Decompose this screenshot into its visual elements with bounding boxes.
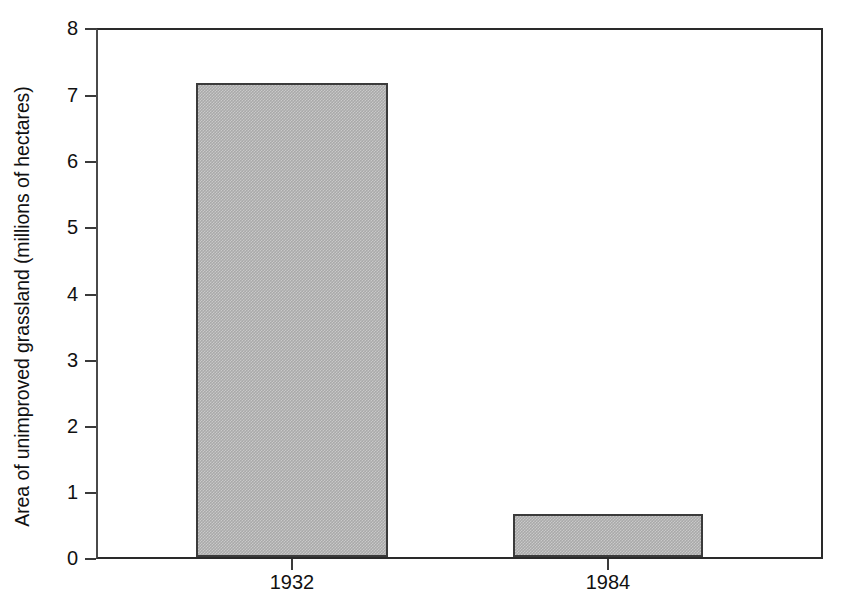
y-axis-ticks: 0 1 2 3 4 5 6 7 8 [0,0,96,613]
y-tick-text-3: 3 [67,350,78,370]
y-tick-text-4: 4 [67,284,78,304]
bar-chart-figure: Area of unimproved grassland (millions o… [0,0,850,613]
y-tick-mark-2 [85,426,96,428]
y-tick-text-2: 2 [67,416,78,436]
y-tick-mark-7 [85,95,96,97]
x-tick-mark-1932 [291,559,293,570]
plot-area [96,28,823,559]
y-tick-text-8: 8 [67,18,78,38]
y-tick-text-6: 6 [67,151,78,171]
y-tick-mark-0 [85,558,96,560]
y-tick-text-7: 7 [67,85,78,105]
y-tick-mark-6 [85,161,96,163]
bar-1932 [196,83,388,557]
y-tick-mark-5 [85,227,96,229]
x-tick-label-1932: 1932 [212,572,372,592]
y-tick-text-0: 0 [67,548,78,568]
y-tick-text-5: 5 [67,217,78,237]
y-tick-text-1: 1 [67,482,78,502]
y-tick-mark-8 [85,28,96,30]
y-tick-mark-3 [85,360,96,362]
bar-1984 [513,514,703,557]
x-tick-mark-1984 [607,559,609,570]
x-tick-label-1984: 1984 [528,572,688,592]
y-tick-mark-4 [85,294,96,296]
y-tick-mark-1 [85,492,96,494]
